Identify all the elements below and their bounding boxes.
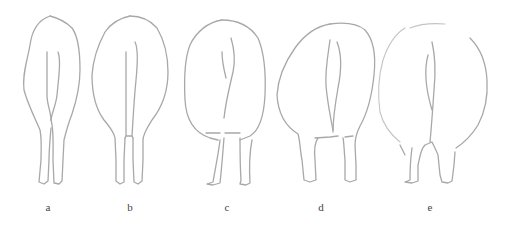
drawing-c <box>185 20 266 185</box>
panel-label-d: d <box>311 201 331 213</box>
panel-label-b: b <box>120 201 140 213</box>
drawing-d <box>277 23 375 182</box>
panel-label-a: a <box>38 201 58 213</box>
figure-drawings <box>0 0 507 229</box>
drawing-b <box>92 16 168 184</box>
drawing-a <box>24 16 80 184</box>
figure: a b c d e <box>0 0 507 229</box>
panel-label-e: e <box>420 201 440 213</box>
drawing-e <box>379 24 487 183</box>
panel-label-c: c <box>217 201 237 213</box>
